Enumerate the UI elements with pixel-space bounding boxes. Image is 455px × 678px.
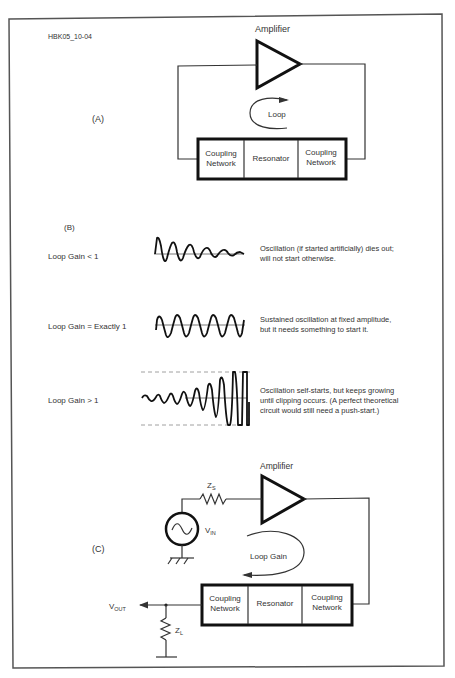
description-line: but it needs something to start it. [260, 325, 368, 334]
panel-b: (B) Loop Gain < 1 Oscillation (if starte… [48, 223, 399, 425]
description-line: Oscillation self-starts, but keeps growi… [260, 386, 394, 395]
block-coupling-network-left-line1: Coupling [209, 594, 241, 603]
block-resonator: Resonator [253, 154, 290, 163]
description-line: circuit would still need a push-start.) [260, 406, 380, 415]
wire-amp-output [304, 498, 369, 604]
panel-a-label: (A) [92, 114, 104, 124]
amplifier-triangle-icon [257, 41, 300, 88]
panel-a: (A) Amplifier Loop Coupling Network Reso… [92, 24, 365, 179]
block-coupling-network-left-line1: Coupling [205, 149, 237, 158]
loop-gain-label: Loop Gain [250, 552, 287, 561]
wire-left [178, 65, 257, 159]
sustained-waveform-icon [156, 315, 244, 337]
decaying-waveform-icon [155, 238, 244, 261]
gain-label: Loop Gain < 1 [48, 252, 99, 261]
loop-gain-arrowhead-icon [242, 572, 252, 578]
panel-c-label: (C) [92, 544, 105, 554]
load-impedance-label: ZL [175, 626, 183, 636]
description-line: Sustained oscillation at fixed amplitude… [260, 315, 391, 324]
gain-row-greater-than-one: Loop Gain > 1 Oscillation self-starts, b… [48, 372, 399, 425]
figure-border [9, 14, 444, 668]
gain-label: Loop Gain > 1 [48, 396, 99, 405]
description-line: until clipping occurs. (A perfect theore… [260, 396, 399, 405]
oscillator-loop-gain-figure: HBK05_10-04 (A) Amplifier Loop Coupling … [0, 0, 455, 678]
gain-row-exactly-one: Loop Gain = Exactly 1 Sustained oscillat… [48, 315, 391, 337]
description-line: will not start otherwise. [259, 254, 336, 263]
block-coupling-network-right-line1: Coupling [305, 148, 337, 157]
block-coupling-network-right-line2: Network [306, 158, 336, 167]
panel-c: (C) Amplifier ZS VIN Loop Gain Coupling [92, 461, 369, 657]
panel-b-label: (B) [64, 223, 75, 232]
input-voltage-label: VIN [205, 526, 216, 536]
block-coupling-network-right-line2: Network [312, 603, 342, 612]
amplifier-triangle-icon [262, 476, 304, 523]
loop-arrowhead-icon [279, 97, 289, 103]
output-voltage-label: VOUT [109, 602, 127, 612]
block-coupling-network-left-line2: Network [206, 159, 236, 168]
loop-label: Loop [268, 110, 286, 119]
description-line: Oscillation (if started artificially) di… [260, 244, 394, 253]
figure-id: HBK05_10-04 [48, 33, 92, 41]
ground-icon [168, 558, 194, 564]
source-impedance-resistor-icon [200, 494, 226, 504]
source-impedance-label: ZS [207, 481, 216, 491]
wire-right [300, 64, 365, 159]
block-resonator: Resonator [257, 599, 294, 608]
block-coupling-network-left-line2: Network [210, 604, 240, 613]
block-coupling-network-right-line1: Coupling [311, 593, 343, 602]
growing-clipped-waveform-icon [142, 372, 249, 425]
amplifier-label: Amplifier [255, 24, 290, 34]
gain-row-less-than-one: Loop Gain < 1 Oscillation (if started ar… [48, 238, 394, 263]
wire-source-top [182, 499, 200, 512]
amplifier-label: Amplifier [260, 461, 293, 471]
gain-label: Loop Gain = Exactly 1 [48, 322, 127, 331]
load-impedance-resistor-icon [161, 618, 170, 640]
